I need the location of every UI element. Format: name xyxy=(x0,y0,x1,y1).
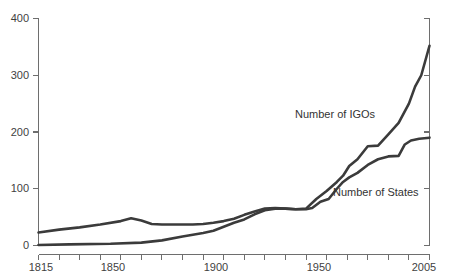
igo-series-label: Number of IGOs xyxy=(295,108,376,120)
line-chart: 400 300 200 100 0 1815 1850 1900 1950 20… xyxy=(0,0,449,277)
y-tick-label-200: 200 xyxy=(11,126,29,138)
x-tick-label-2005: 2005 xyxy=(412,261,436,273)
y-tick-label-100: 100 xyxy=(11,182,29,194)
x-tick-label-1815: 1815 xyxy=(29,261,53,273)
chart-container: 400 300 200 100 0 1815 1850 1900 1950 20… xyxy=(0,0,449,277)
x-tick-label-1900: 1900 xyxy=(204,261,228,273)
y-tick-label-300: 300 xyxy=(11,69,29,81)
x-tick-label-1950: 1950 xyxy=(307,261,331,273)
x-tick-label-1850: 1850 xyxy=(101,261,125,273)
y-tick-label-0: 0 xyxy=(23,239,29,251)
chart-background xyxy=(0,0,449,277)
y-tick-label-400: 400 xyxy=(11,12,29,24)
states-series-label: Number of States xyxy=(333,186,419,198)
